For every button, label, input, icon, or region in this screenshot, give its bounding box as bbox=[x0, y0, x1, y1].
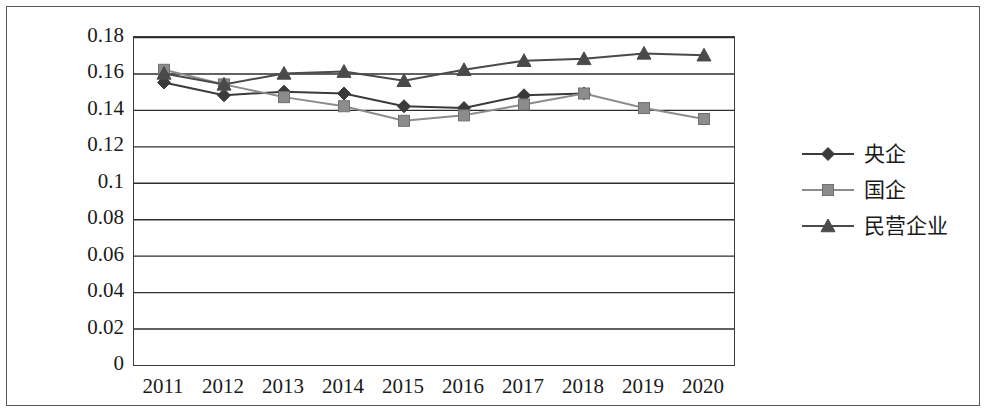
data-point-square bbox=[519, 99, 530, 110]
data-point-square bbox=[639, 103, 650, 114]
x-axis-label: 2014 bbox=[313, 374, 373, 398]
x-axis-label: 2019 bbox=[613, 374, 673, 398]
series-line bbox=[164, 70, 704, 121]
legend-key-canvas bbox=[800, 178, 856, 202]
data-point-square bbox=[699, 114, 710, 125]
chart-legend: 央企国企民营企业 bbox=[800, 136, 970, 244]
chart-canvas bbox=[134, 37, 734, 365]
legend-marker-square-icon bbox=[800, 178, 856, 202]
x-axis-label: 2017 bbox=[493, 374, 553, 398]
y-axis-label: 0.02 bbox=[87, 317, 124, 338]
data-point-square bbox=[399, 115, 410, 126]
series-3 bbox=[157, 46, 711, 90]
chart-figure: 00.020.040.060.080.10.120.140.160.18 201… bbox=[0, 0, 988, 414]
y-axis-label: 0.06 bbox=[87, 244, 124, 265]
plot-area bbox=[133, 36, 735, 366]
legend-label: 国企 bbox=[864, 178, 906, 202]
legend-marker-triangle-icon bbox=[800, 214, 856, 238]
x-axis-label: 2013 bbox=[253, 374, 313, 398]
x-axis-label: 2016 bbox=[433, 374, 493, 398]
y-axis-label: 0 bbox=[114, 353, 125, 374]
y-axis-label: 0.04 bbox=[87, 280, 124, 301]
x-axis-tick-labels: 2011201220132014201520162017201820192020 bbox=[133, 374, 735, 404]
y-axis-label: 0.1 bbox=[98, 171, 124, 192]
data-point-square bbox=[339, 101, 350, 112]
x-axis-label: 2015 bbox=[373, 374, 433, 398]
data-point-diamond bbox=[338, 87, 351, 100]
legend-item-3: 民营企业 bbox=[800, 208, 970, 244]
y-axis-label: 0.12 bbox=[87, 134, 124, 155]
legend-marker-diamond-icon bbox=[800, 142, 856, 166]
legend-item-1: 央企 bbox=[800, 136, 970, 172]
x-axis-label: 2020 bbox=[673, 374, 733, 398]
legend-key-canvas bbox=[800, 214, 856, 238]
data-point-diamond bbox=[218, 89, 231, 102]
legend-item-2: 国企 bbox=[800, 172, 970, 208]
y-axis-tick-labels: 00.020.040.060.080.10.120.140.160.18 bbox=[52, 0, 124, 414]
x-axis-label: 2012 bbox=[193, 374, 253, 398]
y-axis-label: 0.18 bbox=[87, 25, 124, 46]
series-line bbox=[164, 53, 704, 84]
legend-key-canvas bbox=[800, 142, 856, 166]
data-point-square bbox=[459, 110, 470, 121]
data-point-square bbox=[579, 88, 590, 99]
data-point-diamond bbox=[822, 148, 835, 161]
data-point-square bbox=[823, 185, 834, 196]
legend-label: 民营企业 bbox=[864, 214, 948, 238]
x-axis-label: 2011 bbox=[133, 374, 193, 398]
y-axis-label: 0.08 bbox=[87, 207, 124, 228]
legend-label: 央企 bbox=[864, 142, 906, 166]
y-axis-label: 0.14 bbox=[87, 98, 124, 119]
y-axis-label: 0.16 bbox=[87, 61, 124, 82]
data-point-square bbox=[279, 92, 290, 103]
x-axis-label: 2018 bbox=[553, 374, 613, 398]
